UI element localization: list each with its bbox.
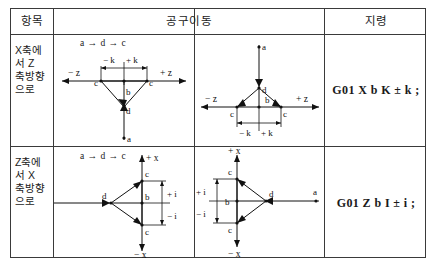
point-label-c-right: c xyxy=(149,78,153,88)
dim-label-neg-i: − i xyxy=(196,209,206,219)
axis-label-pos-x: + x xyxy=(146,153,159,163)
point-label-b: b xyxy=(145,192,150,202)
diagram-svg-4: + x − x a d c c b xyxy=(195,147,324,259)
point-label-c-left: c xyxy=(230,109,234,119)
axis-label-pos-z: + z xyxy=(160,68,172,78)
dim-label-neg-k: − k xyxy=(103,55,115,65)
point-label-c-right: c xyxy=(283,109,287,119)
row-label-line: 서 X xyxy=(15,169,53,182)
row-label-line: Z축에 xyxy=(15,156,53,169)
command-z-to-x: G01 Z b I ± i ; xyxy=(325,147,427,259)
dim-label-pos-k: + k xyxy=(261,128,273,138)
point-label-a: a xyxy=(262,42,266,52)
dim-label-pos-i: + i xyxy=(196,187,206,197)
header-command: 지령 xyxy=(325,9,427,34)
dim-label-neg-k: − k xyxy=(239,128,251,138)
axis-label-neg-x: − x xyxy=(228,249,241,259)
row-label-line: 으로 xyxy=(15,195,53,208)
point-label-c-top: c xyxy=(228,167,232,177)
axis-label-neg-z: − z xyxy=(205,94,217,104)
row-label-z-to-x: Z축에 서 X 축방향 으로 xyxy=(11,147,53,259)
row-label-line: X축에 xyxy=(15,44,53,57)
point-label-c-bottom: c xyxy=(145,227,149,237)
axis-label-neg-z: − z xyxy=(68,68,80,78)
point-label-a: a xyxy=(313,187,317,197)
point-label-c-bottom: c xyxy=(228,225,232,235)
axis-label-neg-x: − x xyxy=(134,250,147,259)
dim-label-pos-i: + i xyxy=(167,189,177,199)
axis-label-pos-z: + z xyxy=(296,94,308,104)
point-label-d: d xyxy=(126,106,131,116)
command-x-to-z: G01 X b K ± k ; xyxy=(325,35,427,146)
point-label-d: d xyxy=(262,85,267,95)
point-label-c-left: c xyxy=(94,78,98,88)
point-label-b: b xyxy=(126,87,131,97)
point-label-c-top: c xyxy=(145,169,149,179)
diagram-z-to-x-right: + x − x a d c c b xyxy=(195,147,324,259)
flow-sequence-row2: a → d → c xyxy=(80,151,126,161)
point-label-b: b xyxy=(225,197,230,207)
diagram-x-to-z-left: a → d → c − z + z − k + k xyxy=(54,35,194,146)
dim-label-neg-i: − i xyxy=(167,211,177,221)
dim-label-pos-k: + k xyxy=(126,55,138,65)
diagram-svg-1: − z + z − k + k c c xyxy=(54,35,194,146)
point-label-b: b xyxy=(265,95,270,105)
header-item: 항목 xyxy=(11,9,53,34)
row-label-line: 으로 xyxy=(15,83,53,96)
diagram-x-to-z-right: a d − z + z b c c xyxy=(195,35,324,146)
header-tool-move: 공구이동 xyxy=(54,9,324,34)
reference-table: 항목 공구이동 지령 X축에 서 Z 축방향 으로 a → d → c − z … xyxy=(10,8,426,258)
point-label-d: d xyxy=(102,191,107,201)
point-label-a: a xyxy=(127,134,131,144)
row-label-line: 서 Z xyxy=(15,57,53,70)
diagram-z-to-x-left: a → d → c + x − x d c c b xyxy=(54,147,194,259)
point-label-d: d xyxy=(269,189,274,199)
diagram-svg-3: + x − x d c c b xyxy=(54,147,194,259)
row-label-x-to-z: X축에 서 Z 축방향 으로 xyxy=(11,35,53,146)
row-label-line: 축방향 xyxy=(15,70,53,83)
row-label-line: 축방향 xyxy=(15,182,53,195)
axis-label-pos-x: + x xyxy=(228,147,241,156)
flow-sequence-row1: a → d → c xyxy=(80,38,126,48)
diagram-svg-2: a d − z + z b c c xyxy=(195,35,324,146)
